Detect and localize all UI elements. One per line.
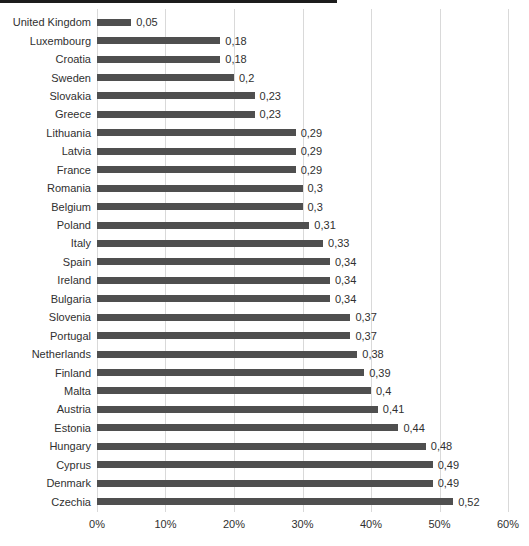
chart-row: Malta0,4 [0, 382, 529, 400]
category-label: Luxembourg [0, 35, 97, 47]
category-label: Italy [0, 237, 97, 249]
bar-track: 0,37 [97, 308, 508, 326]
chart-row: United Kingdom0,05 [0, 13, 529, 31]
category-label: Poland [0, 219, 97, 231]
bar [97, 74, 234, 81]
value-label: 0,4 [376, 385, 391, 397]
bar [97, 314, 350, 321]
category-label: Ireland [0, 274, 97, 286]
bar-track: 0,29 [97, 124, 508, 142]
bar [97, 185, 303, 192]
chart-row: Bulgaria0,34 [0, 290, 529, 308]
x-tick-label: 20% [223, 518, 245, 530]
value-label: 0,33 [328, 237, 349, 249]
bar-track: 0,34 [97, 290, 508, 308]
category-label: Croatia [0, 53, 97, 65]
value-label: 0,34 [335, 293, 356, 305]
bar-track: 0,31 [97, 216, 508, 234]
bar-track: 0,52 [97, 492, 508, 510]
category-label: United Kingdom [0, 16, 97, 28]
chart-row: Portugal0,37 [0, 326, 529, 344]
value-label: 0,49 [438, 477, 459, 489]
bar [97, 443, 426, 450]
bar-track: 0,05 [97, 13, 508, 31]
bar [97, 222, 309, 229]
chart-row: Croatia0,18 [0, 50, 529, 68]
bar-track: 0,23 [97, 105, 508, 123]
bar [97, 480, 433, 487]
category-label: Belgium [0, 201, 97, 213]
category-label: Denmark [0, 477, 97, 489]
category-label: Cyprus [0, 459, 97, 471]
bar-track: 0,4 [97, 382, 508, 400]
bar [97, 111, 255, 118]
bar [97, 295, 330, 302]
bar [97, 203, 303, 210]
chart-row: Latvia0,29 [0, 142, 529, 160]
value-label: 0,38 [362, 348, 383, 360]
chart-row: Denmark0,49 [0, 474, 529, 492]
bar-track: 0,33 [97, 234, 508, 252]
bar-track: 0,34 [97, 271, 508, 289]
bar-track: 0,29 [97, 161, 508, 179]
chart-row: Belgium0,3 [0, 197, 529, 215]
x-tick-label: 30% [291, 518, 313, 530]
bar [97, 498, 453, 505]
chart-row: Slovakia0,23 [0, 87, 529, 105]
chart-row: Finland0,39 [0, 363, 529, 381]
value-label: 0,23 [260, 90, 281, 102]
value-label: 0,34 [335, 256, 356, 268]
value-label: 0,3 [308, 201, 323, 213]
bar [97, 240, 323, 247]
category-label: Finland [0, 367, 97, 379]
chart-row: Cyprus0,49 [0, 456, 529, 474]
x-tick-label: 50% [428, 518, 450, 530]
chart-row: Romania0,3 [0, 179, 529, 197]
bar-track: 0,39 [97, 363, 508, 381]
top-rule-divider [0, 0, 337, 3]
value-label: 0,29 [301, 127, 322, 139]
chart-row: Sweden0,2 [0, 68, 529, 86]
bar-track: 0,23 [97, 87, 508, 105]
bar-track: 0,41 [97, 400, 508, 418]
bar-track: 0,18 [97, 31, 508, 49]
bar-track: 0,3 [97, 197, 508, 215]
bar [97, 19, 131, 26]
bar [97, 37, 220, 44]
chart-row: Czechia0,52 [0, 492, 529, 510]
bar [97, 148, 296, 155]
bar [97, 56, 220, 63]
chart-row: Poland0,31 [0, 216, 529, 234]
bar-track: 0,3 [97, 179, 508, 197]
category-label: Latvia [0, 145, 97, 157]
bar-track: 0,49 [97, 474, 508, 492]
category-label: Portugal [0, 330, 97, 342]
bar [97, 92, 255, 99]
bar [97, 277, 330, 284]
bar [97, 332, 350, 339]
x-tick-label: 60% [497, 518, 519, 530]
x-axis-tick-labels: 0%10%20%30%40%50%60% [97, 518, 508, 534]
bar-track: 0,34 [97, 253, 508, 271]
value-label: 0,23 [260, 108, 281, 120]
chart-row: Ireland0,34 [0, 271, 529, 289]
value-label: 0,29 [301, 145, 322, 157]
chart-row: France0,29 [0, 161, 529, 179]
bar [97, 258, 330, 265]
value-label: 0,48 [431, 440, 452, 452]
chart-row: Luxembourg0,18 [0, 31, 529, 49]
chart-row: Lithuania0,29 [0, 124, 529, 142]
value-label: 0,18 [225, 35, 246, 47]
category-label: France [0, 164, 97, 176]
category-label: Spain [0, 256, 97, 268]
chart-row: Greece0,23 [0, 105, 529, 123]
bar [97, 406, 378, 413]
value-label: 0,29 [301, 164, 322, 176]
category-label: Sweden [0, 72, 97, 84]
chart-row: Italy0,33 [0, 234, 529, 252]
bar [97, 369, 364, 376]
bar-track: 0,38 [97, 345, 508, 363]
category-label: Austria [0, 403, 97, 415]
bar-track: 0,44 [97, 419, 508, 437]
bar [97, 166, 296, 173]
